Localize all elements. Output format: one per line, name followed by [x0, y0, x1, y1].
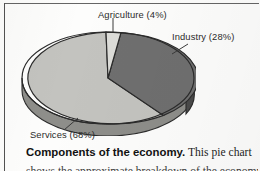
- figure-caption: Components of the economy. This pie char…: [26, 146, 258, 159]
- pie-label-agriculture: Agriculture (4%): [98, 9, 167, 20]
- pie-label-industry: Industry (28%): [172, 31, 234, 42]
- figure-page: Agriculture (4%) Industry (28%) Services…: [0, 0, 260, 171]
- figure-caption-rest: This pie chart: [185, 146, 251, 159]
- pie-chart-graphic: [20, 14, 196, 136]
- figure-caption-lead: Components of the economy.: [26, 146, 185, 158]
- figure-caption-next-line: shows the approximate breakdown of the e…: [26, 165, 258, 171]
- pie-chart-figure: Agriculture (4%) Industry (28%) Services…: [0, 0, 260, 146]
- pie-label-services: Services (68%): [30, 129, 95, 140]
